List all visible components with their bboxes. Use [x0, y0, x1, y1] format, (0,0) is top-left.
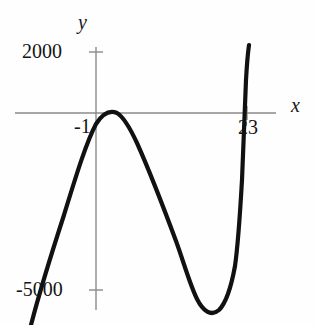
x-axis-label: x — [291, 95, 300, 115]
y-axis-label: y — [78, 12, 87, 32]
polynomial-graph-figure: y x 2000 -5000 -1 23 — [0, 0, 315, 325]
tick-label-neg1: -1 — [74, 116, 91, 136]
tick-label-neg5000: -5000 — [16, 279, 63, 299]
tick-label-23: 23 — [238, 117, 258, 137]
polynomial-curve — [31, 45, 249, 325]
tick-label-2000: 2000 — [22, 41, 62, 61]
